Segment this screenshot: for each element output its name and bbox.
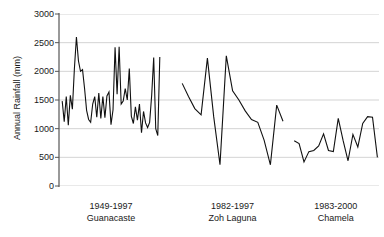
rainfall-line-chart: Annual Rainfall (mm) 0500100015002000250…: [0, 0, 384, 237]
x-group-period: 1949-1997: [89, 201, 132, 211]
y-tick-label: 1000: [18, 124, 54, 134]
plot-area: [59, 14, 379, 186]
y-tick-label: 1500: [18, 95, 54, 105]
y-tick-label: 3000: [18, 9, 54, 19]
y-tick-label: 2500: [18, 38, 54, 48]
plot-svg: [59, 14, 379, 186]
y-tick-label: 2000: [18, 66, 54, 76]
series-lines: [62, 37, 377, 165]
series-line-zoh-laguna: [182, 56, 283, 165]
x-group-site: Zoh Laguna: [173, 212, 293, 224]
x-group-site: Chamela: [276, 212, 384, 224]
y-axis-tick-labels: 050010001500200025003000: [18, 14, 54, 186]
x-group-label-zoh-laguna: 1982-1997Zoh Laguna: [173, 200, 293, 224]
x-group-label-chamela: 1983-2000Chamela: [276, 200, 384, 224]
series-line-chamela: [294, 117, 377, 162]
x-group-period: 1982-1997: [211, 201, 254, 211]
series-line-guanacaste: [62, 37, 160, 136]
x-axis-group-labels: 1949-1997Guanacaste1982-1997Zoh Laguna19…: [59, 192, 379, 232]
x-group-site: Guanacaste: [51, 212, 171, 224]
y-tick-label: 500: [18, 152, 54, 162]
x-group-label-guanacaste: 1949-1997Guanacaste: [51, 200, 171, 224]
x-group-period: 1983-2000: [314, 201, 357, 211]
y-tick-label: 0: [18, 181, 54, 191]
